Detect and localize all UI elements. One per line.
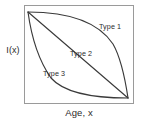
curve-label-type-3: Type 3 xyxy=(43,69,65,78)
chart-figure: I(x) Type 1 Type 2 Type 3 Age, x xyxy=(0,0,142,126)
curve-label-type-1: Type 1 xyxy=(99,22,121,31)
y-axis-label: I(x) xyxy=(2,45,24,55)
x-axis-label: Age, x xyxy=(24,108,134,118)
curves-svg: Type 1 Type 2 Type 3 xyxy=(25,6,133,103)
curve-label-type-2: Type 2 xyxy=(70,49,92,58)
plot-area: Type 1 Type 2 Type 3 xyxy=(24,5,134,104)
